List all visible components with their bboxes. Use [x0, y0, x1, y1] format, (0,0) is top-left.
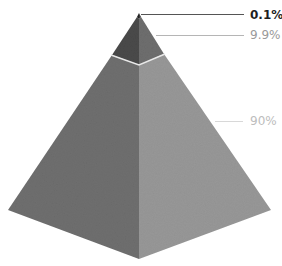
segment-base-right-face — [139, 54, 271, 259]
label-top-segment: 0.1% — [250, 8, 282, 22]
label-middle-segment: 9.9% — [250, 28, 281, 42]
segment-base-left-face — [8, 55, 139, 259]
pyramid-chart — [0, 0, 282, 266]
label-base-segment: 90% — [250, 114, 277, 128]
segment-base — [8, 54, 271, 259]
